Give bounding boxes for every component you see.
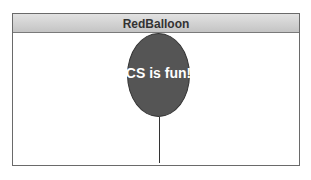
balloon-label: CS is fun! (126, 65, 191, 81)
app-window: RedBalloon CS is fun! (12, 13, 300, 166)
balloon-string (159, 117, 160, 163)
balloon-shape: CS is fun! (127, 33, 190, 117)
window-title: RedBalloon (123, 17, 190, 31)
title-bar[interactable]: RedBalloon (13, 14, 299, 33)
drawing-canvas: CS is fun! (13, 33, 299, 165)
